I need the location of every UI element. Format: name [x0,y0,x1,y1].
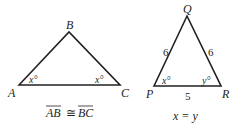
caption-segment-ab: AB [45,106,61,120]
geometry-figures: B A C x° x° AB ≅ BC Q P R 6 6 5 x° y° x … [0,0,234,130]
angle-a-label: x° [28,74,37,85]
vertex-label-r: R [221,87,230,101]
caption-congruent-symbol: ≅ [66,106,76,120]
caption-x-equals-y: x = y [172,109,198,123]
vertex-label-q: Q [183,2,192,16]
angle-p-label: x° [161,75,170,86]
vertex-label-p: P [145,87,154,101]
angle-c-label: x° [94,74,103,85]
side-pr-length: 5 [185,90,191,102]
side-qr-length: 6 [208,46,214,58]
vertex-label-a: A [7,86,16,100]
vertex-label-c: C [121,86,130,100]
vertex-label-b: B [66,18,74,32]
angle-r-label: y° [201,75,210,86]
side-pq-length: 6 [163,46,169,58]
caption-segment-bc: BC [78,106,94,120]
